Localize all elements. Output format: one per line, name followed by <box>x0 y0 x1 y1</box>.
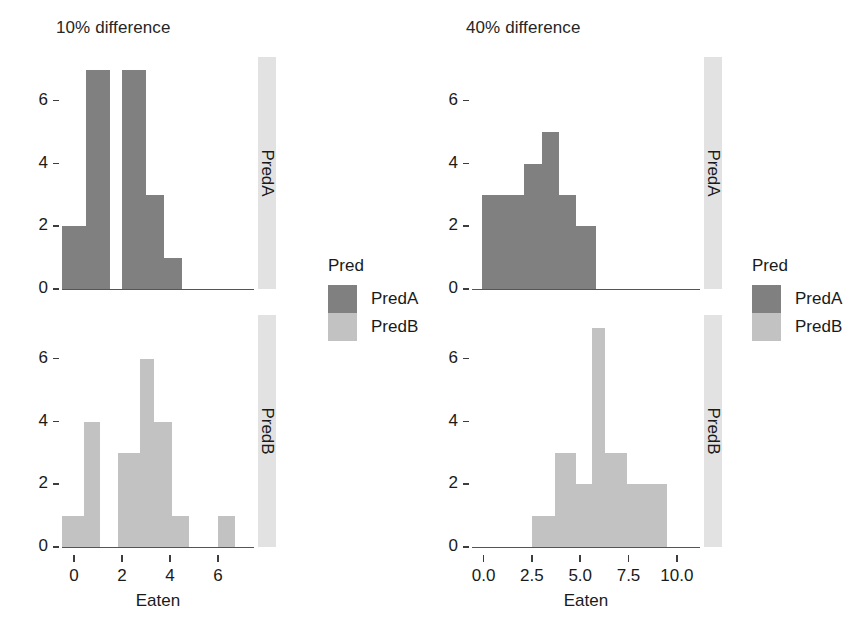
histogram-bar <box>118 453 140 547</box>
y-tick-label: 4 <box>420 153 458 173</box>
x-tick-mark <box>121 555 123 562</box>
histogram-bar <box>84 422 101 547</box>
legend-title: Pred <box>752 256 842 276</box>
x-axis-line <box>62 289 254 290</box>
facet-strip: PredA <box>704 57 722 289</box>
histogram-bar <box>646 484 667 547</box>
legend-title: Pred <box>328 256 418 276</box>
facet-strip: PredA <box>258 57 276 289</box>
x-axis-line <box>472 547 700 548</box>
y-tick-label: 6 <box>10 90 48 110</box>
histogram-bar <box>154 422 172 547</box>
legend-color-swatch <box>752 313 781 341</box>
histogram-bar <box>592 328 606 547</box>
y-tick-label: 6 <box>10 348 48 368</box>
x-tick-label: 6 <box>188 566 248 586</box>
histogram-bar <box>627 484 646 547</box>
y-tick-label: 6 <box>420 348 458 368</box>
histogram-bar <box>532 516 555 547</box>
histogram-figure: 10% difference0246PredA02460246EatenPred… <box>0 0 864 638</box>
facet-strip-label: PredB <box>703 407 723 454</box>
histogram-bar <box>555 453 576 547</box>
y-tick-mark <box>53 225 59 227</box>
x-axis-title: Eaten <box>62 591 254 611</box>
legend: PredPredAPredB <box>752 256 842 341</box>
y-tick-mark <box>463 100 469 102</box>
y-tick-label: 0 <box>10 278 48 298</box>
legend-item[interactable]: PredA <box>752 285 842 313</box>
y-tick-label: 2 <box>10 473 48 493</box>
facet-strip: PredB <box>258 315 276 547</box>
y-tick-mark <box>463 546 469 548</box>
y-tick-label: 2 <box>10 215 48 235</box>
histogram-bar <box>576 226 595 289</box>
facet-strip: PredB <box>704 315 722 547</box>
x-tick-mark <box>217 555 219 562</box>
y-tick-label: 4 <box>10 411 48 431</box>
y-tick-mark <box>53 163 59 165</box>
legend-item[interactable]: PredA <box>328 285 418 313</box>
legend: PredPredAPredB <box>328 256 418 341</box>
panel-title: 40% difference <box>466 18 581 38</box>
histogram-bar <box>503 195 524 289</box>
x-tick-mark <box>483 555 485 562</box>
facet-strip-label: PredA <box>257 149 277 196</box>
legend-color-swatch <box>752 285 781 313</box>
x-tick-label: 10.0 <box>647 566 707 586</box>
histogram-bar <box>62 516 84 547</box>
legend-item-label: PredA <box>371 289 418 309</box>
facet-strip-label: PredA <box>703 149 723 196</box>
y-tick-label: 0 <box>420 278 458 298</box>
y-tick-mark <box>463 358 469 360</box>
histogram-bar <box>62 226 86 289</box>
x-tick-mark <box>579 555 581 562</box>
facet-strip-label: PredB <box>257 407 277 454</box>
y-tick-mark <box>463 483 469 485</box>
y-tick-label: 4 <box>10 153 48 173</box>
histogram-bar <box>140 359 154 547</box>
panel-title: 10% difference <box>56 18 171 38</box>
histogram-bar <box>524 164 541 289</box>
y-tick-label: 0 <box>10 536 48 556</box>
y-tick-mark <box>53 483 59 485</box>
histogram-bar <box>122 70 146 289</box>
y-tick-mark <box>53 546 59 548</box>
histogram-bar <box>576 484 591 547</box>
x-axis-line <box>62 547 254 548</box>
legend-color-swatch <box>328 285 357 313</box>
x-tick-mark <box>628 555 630 562</box>
legend-item-label: PredB <box>371 317 418 337</box>
y-tick-mark <box>53 421 59 423</box>
histogram-bar <box>559 195 576 289</box>
histogram-bar <box>86 70 110 289</box>
y-tick-mark <box>53 100 59 102</box>
legend-item[interactable]: PredB <box>328 313 418 341</box>
y-tick-label: 2 <box>420 215 458 235</box>
histogram-bar <box>218 516 235 547</box>
histogram-bar <box>172 516 189 547</box>
x-tick-mark <box>676 555 678 562</box>
x-tick-mark <box>531 555 533 562</box>
y-tick-mark <box>53 358 59 360</box>
histogram-bar <box>146 195 164 289</box>
y-tick-label: 6 <box>420 90 458 110</box>
y-tick-mark <box>463 163 469 165</box>
histogram-bar <box>542 132 559 289</box>
y-tick-mark <box>463 288 469 290</box>
y-tick-label: 0 <box>420 536 458 556</box>
legend-color-swatch <box>328 313 357 341</box>
y-tick-mark <box>463 421 469 423</box>
y-tick-mark <box>53 288 59 290</box>
legend-item-label: PredA <box>795 289 842 309</box>
histogram-bar <box>482 195 503 289</box>
legend-item[interactable]: PredB <box>752 313 842 341</box>
x-tick-mark <box>169 555 171 562</box>
y-tick-mark <box>463 225 469 227</box>
histogram-bar <box>605 453 626 547</box>
x-tick-mark <box>73 555 75 562</box>
y-tick-label: 4 <box>420 411 458 431</box>
legend-item-label: PredB <box>795 317 842 337</box>
x-axis-line <box>472 289 700 290</box>
x-axis-title: Eaten <box>472 591 700 611</box>
y-tick-label: 2 <box>420 473 458 493</box>
